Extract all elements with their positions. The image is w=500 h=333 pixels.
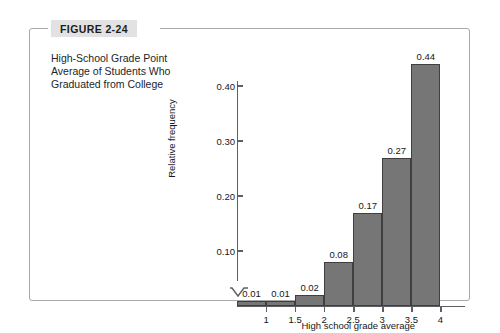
histogram-bar	[353, 213, 382, 307]
y-tick-label: 0.20	[217, 191, 236, 202]
bar-value-label: 0.02	[292, 282, 328, 293]
y-tick-mark	[238, 140, 243, 141]
bar-value-label: 0.27	[379, 145, 415, 156]
x-tick-mark	[295, 306, 296, 312]
y-tick: 0.40	[195, 80, 243, 92]
x-axis-line	[237, 306, 465, 307]
plot-area: 0.100.200.300.40 11.522.533.54 0.010.010…	[237, 49, 452, 306]
y-tick-label: 0.40	[217, 81, 236, 92]
figure-frame: FIGURE 2-24 High-School Grade Point Aver…	[29, 28, 470, 301]
x-tick-mark	[324, 306, 325, 312]
figure-number-badge: FIGURE 2-24	[51, 20, 137, 37]
y-tick-mark	[238, 85, 243, 86]
figure-caption: High-School Grade Point Average of Stude…	[51, 52, 175, 92]
histogram-bar	[382, 158, 411, 307]
figure-number-label: FIGURE 2-24	[60, 23, 128, 35]
y-tick: 0.10	[195, 245, 243, 257]
bar-value-label: 0.08	[321, 249, 357, 260]
y-axis-title: Relative frequency	[166, 39, 177, 239]
y-tick-label: 0.10	[217, 246, 236, 257]
histogram-bar	[295, 295, 324, 306]
x-tick-mark	[382, 306, 383, 312]
bar-value-label: 0.44	[408, 51, 444, 62]
y-tick: 0.20	[195, 190, 243, 202]
x-tick-mark	[353, 306, 354, 312]
y-tick-mark	[238, 195, 243, 196]
y-tick-mark	[238, 250, 243, 251]
y-tick: 0.30	[195, 135, 243, 147]
x-tick-label: 4	[425, 314, 455, 325]
bar-value-label: 0.17	[350, 200, 386, 211]
histogram-chart: Relative frequency 0.100.200.300.40 11.5…	[165, 41, 465, 299]
histogram-bar	[324, 262, 353, 306]
x-tick-mark	[266, 306, 267, 312]
x-tick-mark	[411, 306, 412, 312]
histogram-bar	[266, 301, 295, 307]
histogram-bar	[237, 301, 266, 307]
histogram-bar	[411, 64, 440, 306]
x-axis-title: High school grade average	[225, 320, 415, 331]
x-tick-mark	[440, 306, 441, 312]
y-tick-label: 0.30	[217, 136, 236, 147]
